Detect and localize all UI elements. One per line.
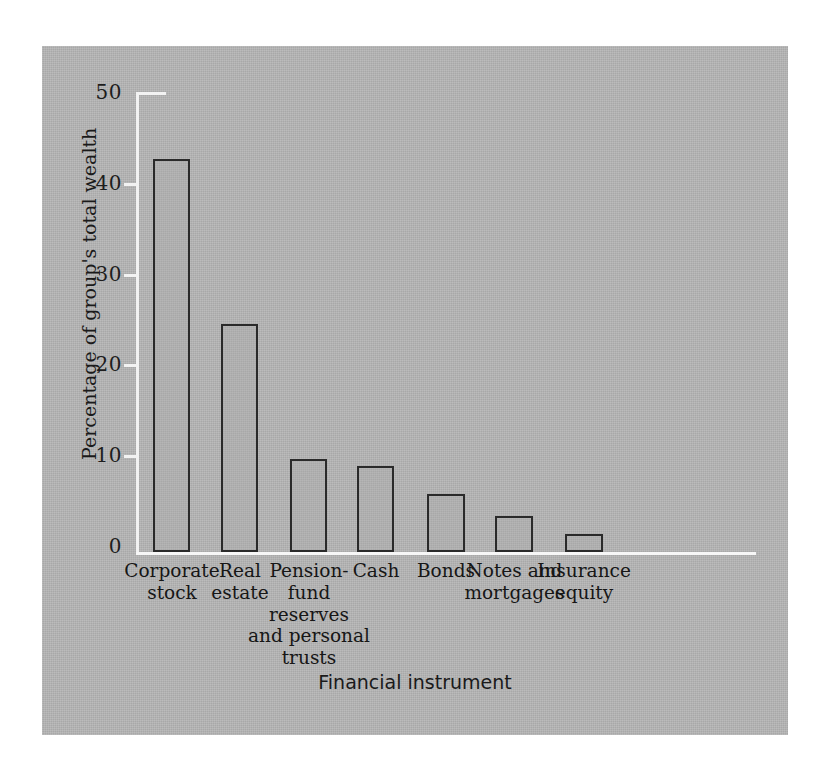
bar-corporate-stock xyxy=(153,159,190,552)
cat-line: and personal xyxy=(245,625,373,647)
y-tick-10 xyxy=(124,455,139,458)
x-axis-line xyxy=(136,552,756,555)
bar-notes-mortgages xyxy=(495,516,533,552)
category-label-insurance-equity: Insurance equity xyxy=(529,560,639,604)
y-tick-20 xyxy=(124,364,139,367)
y-axis-line xyxy=(136,92,139,555)
bar-pension-fund xyxy=(290,459,327,552)
chart-panel: 50 40 30 20 10 0 Percentage of group's t… xyxy=(42,46,788,735)
y-tick-50 xyxy=(136,92,166,95)
bar-cash xyxy=(357,466,394,552)
y-tick-label-0: 0 xyxy=(64,534,122,558)
x-axis-title: Financial instrument xyxy=(42,671,788,693)
bar-insurance-equity xyxy=(565,534,603,552)
bar-bonds xyxy=(427,494,465,552)
cat-line: trusts xyxy=(245,647,373,669)
y-tick-label-50: 50 xyxy=(64,80,122,104)
cat-line: fund xyxy=(245,582,373,604)
cat-line: equity xyxy=(529,582,639,604)
figure-root: 50 40 30 20 10 0 Percentage of group's t… xyxy=(0,0,821,772)
y-tick-40 xyxy=(124,183,139,186)
cat-line: reserves xyxy=(245,604,373,626)
cat-line: Insurance xyxy=(529,560,639,582)
bar-real-estate xyxy=(221,324,258,552)
y-axis-title: Percentage of group's total wealth xyxy=(78,130,100,460)
y-tick-30 xyxy=(124,274,139,277)
